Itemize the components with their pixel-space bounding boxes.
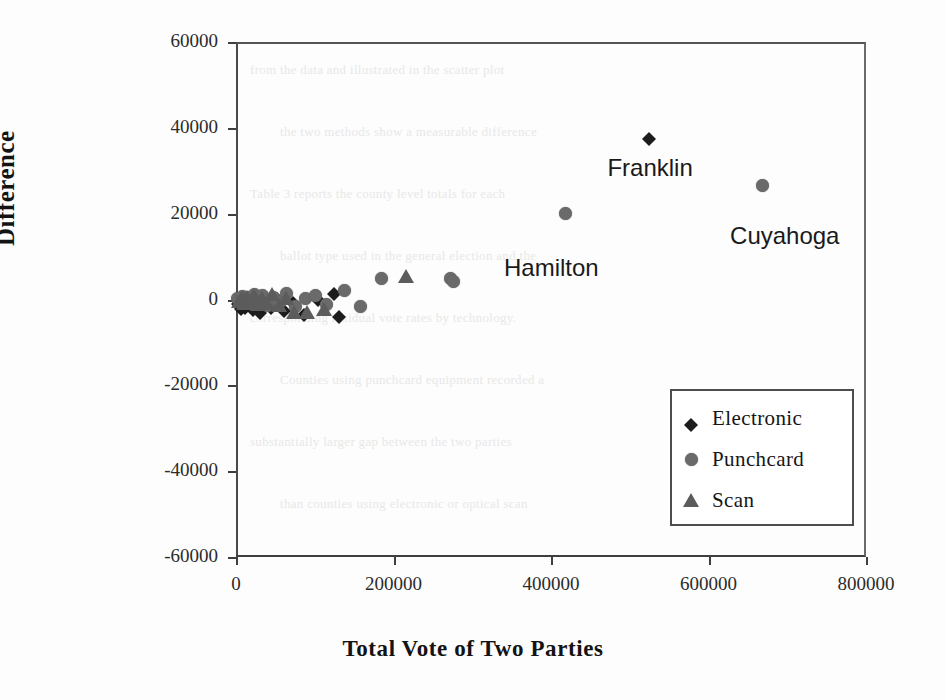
legend-label: Punchcard (712, 447, 804, 472)
y-axis-tick (228, 471, 236, 473)
y-axis-tick-label: -40000 (108, 459, 218, 481)
chart-legend: ElectronicPunchcardScan (670, 389, 854, 526)
y-axis-tick (228, 214, 236, 216)
data-point-circle (559, 207, 572, 220)
data-point-triangle (316, 302, 332, 316)
data-point-triangle (246, 288, 262, 302)
annotation-cuyahoga: Cuyahoga (730, 222, 839, 250)
data-point-circle (447, 275, 460, 288)
diamond-marker (682, 409, 700, 427)
x-axis-tick (551, 557, 553, 565)
data-point-circle (338, 284, 351, 297)
data-point-triangle (250, 297, 266, 311)
data-point-circle (320, 298, 333, 311)
x-axis-tick-label: 400000 (491, 573, 611, 595)
data-point-triangle (242, 294, 258, 308)
data-point-circle (299, 292, 312, 305)
data-point-triangle (271, 298, 287, 312)
x-axis-tick (866, 557, 868, 565)
x-axis-tick (709, 557, 711, 565)
data-point-circle (252, 296, 265, 309)
data-point-circle (248, 288, 261, 301)
legend-label: Scan (712, 488, 754, 513)
circle-marker-glyph (685, 453, 698, 466)
data-point-circle (756, 179, 769, 192)
y-axis-tick-label: -60000 (108, 545, 218, 567)
data-point-circle (238, 296, 251, 309)
data-point-triangle (398, 269, 414, 283)
x-axis-tick-label: 600000 (649, 573, 769, 595)
data-point-circle (354, 300, 367, 313)
legend-item-punchcard[interactable]: Punchcard (682, 446, 804, 472)
data-point-circle (375, 272, 388, 285)
legend-label: Electronic (712, 406, 802, 431)
x-axis-tick-label: 200000 (334, 573, 454, 595)
annotation-franklin: Franklin (607, 154, 692, 182)
y-axis-tick (228, 128, 236, 130)
data-point-triangle (254, 291, 270, 305)
legend-item-electronic[interactable]: Electronic (682, 405, 802, 431)
y-axis-tick-label: 40000 (108, 116, 218, 138)
data-point-circle (256, 289, 269, 302)
data-point-circle (309, 289, 322, 302)
legend-item-scan[interactable]: Scan (682, 487, 754, 513)
x-axis-tick-label: 0 (176, 573, 296, 595)
y-axis-tick (228, 557, 236, 559)
data-point-circle (241, 291, 254, 304)
y-axis-tick-label: -20000 (108, 373, 218, 395)
data-point-triangle (264, 287, 280, 301)
x-axis-tick (394, 557, 396, 565)
circle-marker (682, 450, 700, 468)
data-point-triangle (236, 296, 252, 310)
data-point-circle (236, 290, 249, 303)
annotation-hamilton: Hamilton (504, 254, 599, 282)
y-axis-tick-label: 20000 (108, 202, 218, 224)
data-point-circle (273, 296, 286, 309)
x-axis-title: Total Vote of Two Parties (0, 636, 946, 662)
triangle-marker (682, 491, 700, 509)
data-point-triangle (286, 305, 302, 319)
y-axis-tick-label: 0 (108, 288, 218, 310)
y-axis-title: Difference (0, 130, 20, 246)
data-point-triangle (259, 296, 275, 310)
triangle-marker-glyph (683, 493, 699, 507)
data-point-circle (244, 297, 257, 310)
y-axis-tick (228, 42, 236, 44)
y-axis-tick-label: 60000 (108, 30, 218, 52)
data-point-triangle (299, 305, 315, 319)
data-point-circle (267, 291, 280, 304)
x-axis-tick (236, 557, 238, 565)
data-point-triangle (234, 290, 250, 304)
data-point-circle (280, 287, 293, 300)
data-point-circle (444, 272, 457, 285)
data-point-circle (231, 292, 244, 305)
x-axis-tick-label: 800000 (806, 573, 926, 595)
chart-canvas: from the data and illustrated in the sca… (0, 0, 946, 700)
y-axis-tick (228, 300, 236, 302)
y-axis-tick (228, 385, 236, 387)
data-point-triangle (278, 291, 294, 305)
data-point-triangle (239, 290, 255, 304)
data-point-circle (233, 295, 246, 308)
data-point-circle (289, 300, 302, 313)
data-point-circle (261, 299, 274, 312)
